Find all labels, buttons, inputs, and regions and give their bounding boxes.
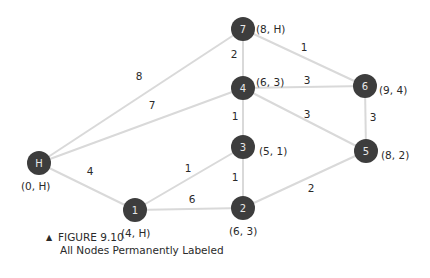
figure-number: FIGURE 9.10 [58,231,124,243]
triangle-marker-icon: ▲ [46,231,58,244]
node-id: 6 [362,81,368,92]
edge-weight: 4 [87,165,94,177]
node-id: 3 [240,142,246,153]
edge-2-5 [243,151,366,208]
nodes-layer: H1234765 [27,17,378,222]
edge-1-2 [135,208,243,210]
node-4: 4 [231,76,255,100]
edge-weight: 1 [301,41,308,53]
edge-weight: 2 [308,182,315,194]
edge-weight: 1 [232,171,239,183]
node-distance-label: (9, 4) [379,84,407,96]
node-6: 6 [353,74,377,98]
node-1: 1 [123,198,147,222]
edge-weight: 7 [149,99,156,111]
edge-weight: 3 [304,74,311,86]
edges-layer [39,29,366,210]
edge-weight: 2 [231,48,238,60]
edge-H-4 [39,88,243,163]
node-distance-label: (8, H) [256,23,285,35]
node-distance-label: (6, 3) [229,225,257,237]
node-5: 5 [354,139,378,163]
node-id: 4 [240,83,246,94]
node-distance-label: (0, H) [21,180,50,192]
node-H: H [27,151,51,175]
edge-H-7 [39,29,243,163]
caption-line-1: ▲FIGURE 9.10 [46,231,224,244]
edge-weight: 1 [232,110,239,122]
node-id: 2 [240,203,246,214]
node-id: 7 [240,24,246,35]
edge-weight: 3 [304,108,311,120]
edge-weight: 6 [189,193,196,205]
node-distance-label: (5, 1) [259,145,287,157]
figure-title: All Nodes Permanently Labeled [46,244,224,257]
node-3: 3 [231,135,255,159]
node-id: 5 [363,146,369,157]
node-2: 2 [231,196,255,220]
edge-weight: 1 [185,162,192,174]
figure-caption: ▲FIGURE 9.10 All Nodes Permanently Label… [46,231,224,257]
edge-weights-layer: 8741611213332 [87,41,377,205]
node-distance-label: (8, 2) [381,149,409,161]
node-id: 1 [132,205,138,216]
edge-weight: 8 [136,70,143,82]
node-distance-label: (6, 3) [256,76,284,88]
node-labels-layer: (0, H)(4, H)(6, 3)(5, 1)(6, 3)(8, H)(9, … [21,23,409,239]
node-7: 7 [231,17,255,41]
edge-weight: 3 [370,111,377,123]
node-id: H [35,158,43,169]
